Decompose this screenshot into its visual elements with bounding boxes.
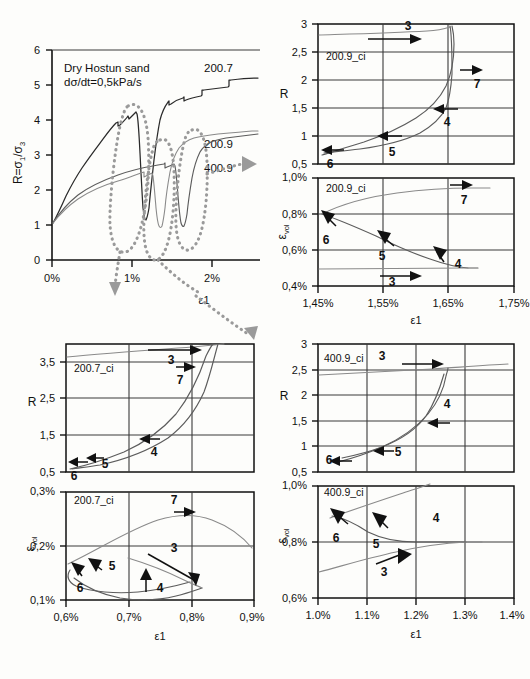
svg-text:6: 6 bbox=[71, 469, 78, 483]
panel-200-9-R-yticks: 3 2,5 2 1,5 1 0,5 bbox=[292, 18, 318, 170]
p1-ytick-1: 1 bbox=[301, 130, 307, 142]
svg-text:4: 4 bbox=[157, 581, 164, 595]
highlight-ellipse-200-9 bbox=[176, 129, 207, 250]
svg-text:4: 4 bbox=[151, 445, 158, 459]
p2-xtick-145: 1,45% bbox=[302, 297, 333, 309]
svg-text:3: 3 bbox=[171, 541, 178, 555]
p6-curve-unload bbox=[332, 516, 466, 542]
panel-200-9-R-grid bbox=[318, 24, 514, 164]
p4-xtick-09: 0,9% bbox=[239, 611, 264, 623]
svg-text:6: 6 bbox=[333, 531, 340, 545]
panel-200-7-evol-xlabel: ε1 bbox=[154, 630, 165, 642]
panel-400-9-R-ylabel: R bbox=[280, 389, 289, 403]
p3-ytick-25: 2,5 bbox=[40, 392, 55, 404]
p1-ytick-15: 1,5 bbox=[292, 102, 307, 114]
p2-step-6: 6 bbox=[321, 210, 336, 247]
panel-200-7-evol: 0,3% 0,2% 0,1% 0,6% 0,7% 0,8% 0,9% εvol … bbox=[8, 482, 264, 662]
svg-text:6: 6 bbox=[326, 453, 333, 467]
p6-step-5: 5 bbox=[372, 512, 388, 551]
svg-text:R=σ1/σ3: R=σ1/σ3 bbox=[11, 142, 27, 184]
p4-xtick-07: 0,7% bbox=[116, 611, 141, 623]
p5-step-5: 5 bbox=[373, 445, 402, 459]
svg-text:εvol: εvol bbox=[23, 536, 39, 551]
panel-200-9-R: 3 2,5 2 1,5 1 0,5 R 200.9_ci 3 7 4 bbox=[272, 16, 528, 186]
panel-200-7-evol-tag: 200.7_ci bbox=[74, 494, 114, 506]
p5-step-6: 6 bbox=[326, 453, 352, 467]
p6-xtick-10: 1.0% bbox=[305, 609, 330, 621]
main-stress-ratio-plot: 6 5 4 3 2 1 0 0% 1% 2% R=σ1/σ3 Dry Hostu… bbox=[8, 38, 266, 288]
main-y-ticks: 6 5 4 3 2 1 0 bbox=[34, 44, 52, 266]
p2-ytick-10: 1,0% bbox=[282, 171, 307, 183]
main-ytick-6: 6 bbox=[34, 44, 40, 56]
p6-xtick-13: 1.3% bbox=[452, 609, 477, 621]
panel-200-9-evol-ylabel: εvol bbox=[275, 224, 291, 239]
p4-curve-bottom bbox=[74, 578, 202, 600]
panel-200-9-evol: 1,0% 0,8% 0,6% 0,4% 1,45% 1,55% 1,65% 1,… bbox=[272, 168, 528, 328]
svg-text:4: 4 bbox=[444, 397, 451, 411]
panel-200-9-evol-xlabel: ε1 bbox=[410, 314, 421, 326]
p6-ytick-10: 1,0% bbox=[282, 479, 307, 491]
panel-200-7-R-ylabel: R bbox=[28, 395, 37, 409]
svg-text:3: 3 bbox=[389, 275, 396, 289]
svg-text:3: 3 bbox=[379, 349, 386, 363]
main-ytick-2: 2 bbox=[34, 184, 40, 196]
main-ytick-5: 5 bbox=[34, 79, 40, 91]
connector-overlay bbox=[0, 280, 300, 370]
p2-step-7: 7 bbox=[450, 180, 473, 207]
svg-text:7: 7 bbox=[461, 193, 468, 207]
svg-text:εvol: εvol bbox=[275, 528, 291, 543]
panel-200-7-R-yticks: 3,5 2,5 1,5 0,5 bbox=[40, 356, 66, 478]
p6-step-6: 6 bbox=[330, 508, 348, 545]
svg-text:5: 5 bbox=[395, 445, 402, 459]
p4-ytick-03: 0,3% bbox=[30, 485, 55, 497]
p2-xtick-165: 1,65% bbox=[432, 297, 463, 309]
p4-curve-arch bbox=[68, 516, 252, 565]
p5-step-4: 4 bbox=[427, 397, 451, 428]
svg-text:5: 5 bbox=[109, 559, 116, 573]
panel-200-9-evol-tag: 200.9_ci bbox=[326, 182, 366, 194]
p5-ytick-3: 3 bbox=[301, 338, 307, 350]
panel-200-7-evol-ylabel: εvol bbox=[23, 536, 39, 551]
p2-step-5: 5 bbox=[377, 230, 394, 263]
panel-400-9-evol-xticks: 1.0% 1.1% 1.2% 1.3% 1.4% bbox=[305, 598, 524, 621]
p5-ytick-15: 1,5 bbox=[292, 415, 307, 427]
connector-400-9-tail bbox=[196, 296, 248, 334]
p5-step-3: 3 bbox=[379, 349, 444, 369]
main-y-axis-label: R=σ1/σ3 bbox=[11, 142, 27, 184]
connector-200-9-arrow bbox=[242, 156, 257, 172]
p3-ytick-15: 1,5 bbox=[40, 429, 55, 441]
svg-text:7: 7 bbox=[474, 77, 481, 91]
main-annotation-line2: dσ/dt=0,5kPa/s bbox=[64, 76, 142, 88]
p2-curve-flat bbox=[319, 268, 468, 269]
svg-text:4: 4 bbox=[455, 257, 462, 271]
main-ytick-3: 3 bbox=[34, 149, 40, 161]
p6-xtick-11: 1.1% bbox=[354, 609, 379, 621]
p2-ytick-08: 0,8% bbox=[282, 208, 307, 220]
p1-ytick-25: 2,5 bbox=[292, 46, 307, 58]
p1-step-7: 7 bbox=[460, 65, 483, 91]
main-ytick-0: 0 bbox=[34, 254, 40, 266]
main-annotation-line1: Dry Hostun sand bbox=[64, 62, 150, 74]
p6-xtick-14: 1.4% bbox=[499, 609, 524, 621]
p5-ytick-2: 2 bbox=[301, 389, 307, 401]
panel-200-7-evol-xticks: 0,6% 0,7% 0,8% 0,9% bbox=[53, 600, 264, 623]
p5-ytick-1: 1 bbox=[301, 440, 307, 452]
svg-text:7: 7 bbox=[171, 493, 178, 507]
p4-xtick-08: 0,8% bbox=[179, 611, 204, 623]
svg-text:5: 5 bbox=[102, 457, 109, 471]
p3-step-4: 4 bbox=[139, 434, 160, 459]
p1-ytick-2: 2 bbox=[301, 74, 307, 86]
p1-curve-top bbox=[319, 27, 450, 35]
panel-400-9-R: 3 2,5 2 1,5 1 0,5 R 400.9_ci 3 4 5 bbox=[272, 334, 528, 494]
p4-step-5: 5 bbox=[88, 558, 116, 573]
p5-curve-reload bbox=[338, 368, 448, 462]
p6-xtick-12: 1.2% bbox=[403, 609, 428, 621]
svg-text:4: 4 bbox=[444, 115, 451, 129]
p4-xtick-06: 0,6% bbox=[53, 611, 78, 623]
panel-400-9-evol: 1,0% 0,8% 0,6% 1.0% 1.1% 1.2% 1.3% 1.4% … bbox=[272, 482, 528, 662]
p1-ytick-3: 3 bbox=[301, 18, 307, 30]
figure-root: 6 5 4 3 2 1 0 0% 1% 2% R=σ1/σ3 Dry Hostu… bbox=[0, 0, 530, 679]
svg-text:5: 5 bbox=[373, 537, 380, 551]
main-ytick-4: 4 bbox=[34, 114, 40, 126]
svg-text:εvol: εvol bbox=[275, 224, 291, 239]
